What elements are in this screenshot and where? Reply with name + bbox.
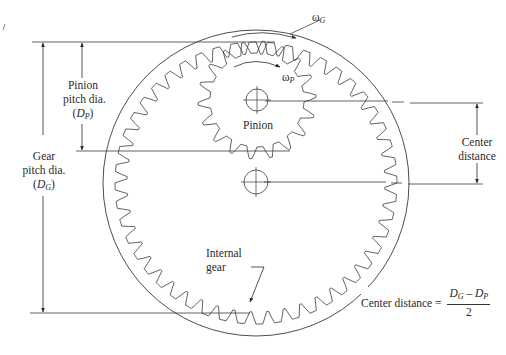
omega-pinion-label: ωP [282,70,294,88]
gear-hub-icon [241,167,271,197]
gear-pitch-dia-label: Gear pitch dia. (DG) [22,149,66,195]
omega-pinion-rotation-arrow [234,62,280,68]
omega-gear-rotation-arrow [232,33,296,38]
pinion-hub-icon [243,86,271,114]
formula-lhs: Center distance = [361,297,442,309]
internal-gear-leader [250,267,264,302]
formula-fraction: DG – DP 2 [447,287,490,319]
internal-gear-label: Internal gear [206,246,242,274]
corner-mark [3,24,5,30]
pinion-symbol: (DP) [63,106,103,124]
center-distance-formula: Center distance = DG – DP 2 [361,287,490,319]
gear-diagram: Pinion pitch dia. (DP) Gear pitch dia. (… [0,0,506,355]
omega-gear-label: ωG [312,10,325,28]
pinion-label: Pinion [243,118,273,132]
center-distance-label: Center distance [450,135,504,163]
gear-symbol: (DG) [22,177,66,195]
pinion-pitch-dia-label: Pinion pitch dia. (DP) [63,78,103,124]
